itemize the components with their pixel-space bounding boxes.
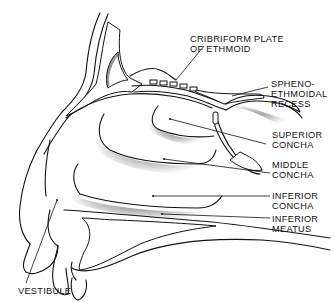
label-inferior-concha: INFERIOR CONCHA — [272, 191, 318, 211]
label-superior-concha: SUPERIOR CONCHA — [272, 130, 322, 150]
label-cribriform-plate: CRIBRIFORM PLATE OF ETHMOID — [190, 34, 284, 54]
label-inferior-meatus: INFERIOR MEATUS — [272, 214, 318, 234]
cribriform-plate — [130, 68, 226, 110]
label-vestibule: VESTIBULE — [18, 286, 71, 296]
ostium-strand — [213, 112, 262, 174]
external-nose — [23, 199, 86, 300]
cavity-wall — [45, 94, 212, 196]
label-middle-concha: MIDDLE CONCHA — [272, 160, 314, 180]
superior-concha — [148, 106, 214, 145]
nasal-cavity-diagram — [0, 0, 335, 302]
label-sphenoethmoidal-recess: SPHENO- ETHMOIDAL RECESS — [271, 79, 327, 109]
